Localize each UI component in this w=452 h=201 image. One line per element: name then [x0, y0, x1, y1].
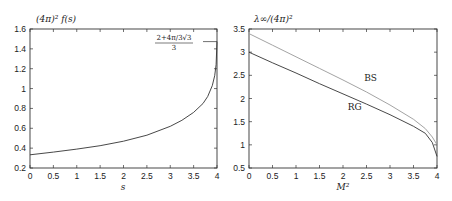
y-tick-label: 3.5: [233, 24, 245, 34]
y-tick-label: 2: [240, 94, 245, 104]
x-tick-label: 2.5: [361, 171, 373, 181]
y-tick-label: 0.4: [14, 143, 26, 153]
series-line-rg: [249, 52, 437, 156]
x-tick-label: 0.5: [47, 171, 59, 181]
x-tick-label: 4: [215, 171, 220, 181]
right-x-axis-label: M²: [336, 182, 350, 192]
x-tick-label: 0: [247, 171, 252, 181]
annotation-numerator: 2+4π/3√3: [156, 34, 191, 42]
x-tick-label: 3: [388, 171, 393, 181]
left-series: [30, 42, 217, 155]
y-tick-label: 1.4: [14, 44, 26, 54]
left-annotation: 2+4π/3√3 3: [155, 34, 217, 52]
x-tick-label: 4: [435, 171, 440, 181]
y-tick-label: 1: [240, 140, 245, 150]
y-tick-label: 1.2: [14, 64, 26, 74]
left-x-ticks: 00.511.522.533.54: [28, 29, 220, 181]
series-label-bs: BS: [364, 73, 377, 83]
chart-figure: 00.511.522.533.54 0.20.40.60.811.21.41.6…: [0, 0, 452, 201]
left-y-ticks: 0.20.40.60.811.21.41.6: [14, 24, 217, 173]
right-plot-frame: [249, 29, 437, 168]
y-tick-label: 0.8: [14, 103, 26, 113]
y-tick-label: 2.5: [233, 70, 245, 80]
y-tick-label: 1: [21, 84, 26, 94]
x-tick-label: 1.5: [314, 171, 326, 181]
y-tick-label: 0.5: [233, 163, 245, 173]
series-label-rg: RG: [348, 102, 362, 112]
annotation-denominator: 3: [172, 44, 176, 52]
series-line-bs: [249, 34, 437, 145]
left-chart-panel: 00.511.522.533.54 0.20.40.60.811.21.41.6…: [14, 14, 219, 192]
x-tick-label: 2: [121, 171, 126, 181]
series-line-f-s-: [30, 42, 217, 155]
right-x-ticks: 00.511.522.533.54: [247, 29, 440, 181]
right-chart-panel: 00.511.522.533.54 0.511.522.533.5 λ∞/(4π…: [233, 14, 439, 192]
x-tick-label: 2: [341, 171, 346, 181]
y-tick-label: 0.2: [14, 163, 26, 173]
x-tick-label: 3.5: [408, 171, 420, 181]
y-tick-label: 0.6: [14, 123, 26, 133]
y-tick-label: 1.5: [233, 117, 245, 127]
y-tick-label: 1.6: [14, 24, 26, 34]
right-y-ticks: 0.511.522.533.5: [233, 24, 437, 173]
x-tick-label: 2.5: [141, 171, 153, 181]
x-tick-label: 1.5: [94, 171, 106, 181]
right-y-axis-label: λ∞/(4π)²: [253, 14, 293, 24]
left-plot-frame: [30, 29, 217, 168]
x-tick-label: 0.5: [267, 171, 279, 181]
x-tick-label: 0: [28, 171, 33, 181]
x-tick-label: 3.5: [188, 171, 200, 181]
left-x-axis-label: s: [121, 182, 126, 192]
x-tick-label: 3: [168, 171, 173, 181]
x-tick-label: 1: [294, 171, 299, 181]
x-tick-label: 1: [74, 171, 79, 181]
right-series: BSRG: [249, 34, 437, 157]
left-y-axis-label: (4π)² f(s): [36, 14, 77, 24]
y-tick-label: 3: [240, 47, 245, 57]
